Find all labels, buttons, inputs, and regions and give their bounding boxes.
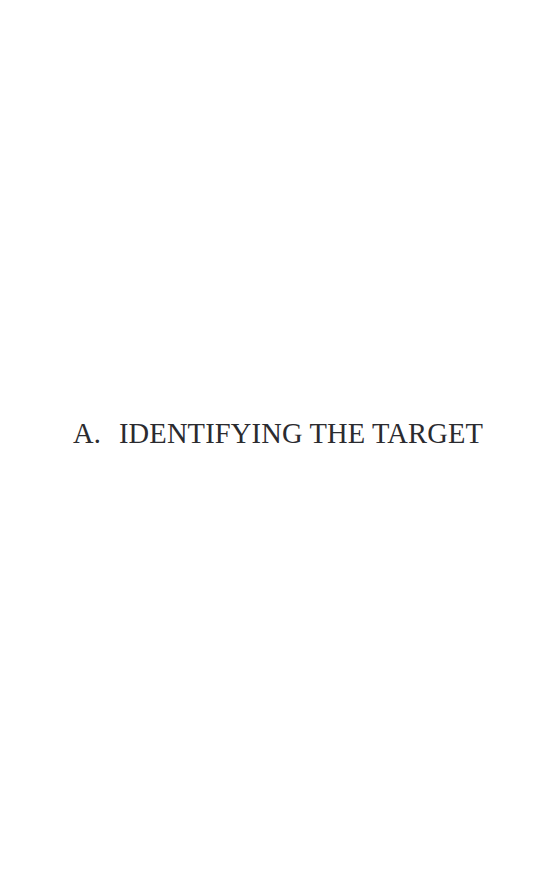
- section-heading: A.IDENTIFYING THE TARGET: [0, 417, 542, 451]
- section-enumerator: A.: [73, 417, 101, 451]
- document-page: A.IDENTIFYING THE TARGET: [0, 0, 542, 877]
- section-title: IDENTIFYING THE TARGET: [119, 417, 483, 451]
- section-heading-line: A.IDENTIFYING THE TARGET: [73, 417, 483, 451]
